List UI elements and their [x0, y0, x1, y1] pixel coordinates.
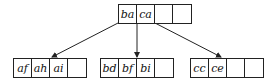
edge-root-to-right	[155, 23, 221, 57]
root-node: ba ca	[118, 4, 192, 24]
middle-key-2: bf	[119, 59, 137, 77]
root-key-3	[155, 5, 173, 23]
middle-key-3: bi	[137, 59, 155, 77]
left-key-1: af	[14, 59, 32, 77]
edge-root-to-left	[52, 23, 118, 57]
left-child-node: af ah ai	[13, 58, 87, 78]
right-key-1: cc	[191, 59, 209, 77]
middle-child-node: bd bf bi	[100, 58, 174, 78]
root-key-4	[173, 5, 191, 23]
root-key-2: ca	[137, 5, 155, 23]
root-key-1: ba	[119, 5, 137, 23]
right-child-node: cc ce	[190, 58, 264, 78]
left-key-3: ai	[50, 59, 68, 77]
right-key-3	[227, 59, 245, 77]
right-key-2: ce	[209, 59, 227, 77]
left-key-4	[68, 59, 86, 77]
right-key-4	[245, 59, 263, 77]
middle-key-4	[155, 59, 173, 77]
left-key-2: ah	[32, 59, 50, 77]
middle-key-1: bd	[101, 59, 119, 77]
